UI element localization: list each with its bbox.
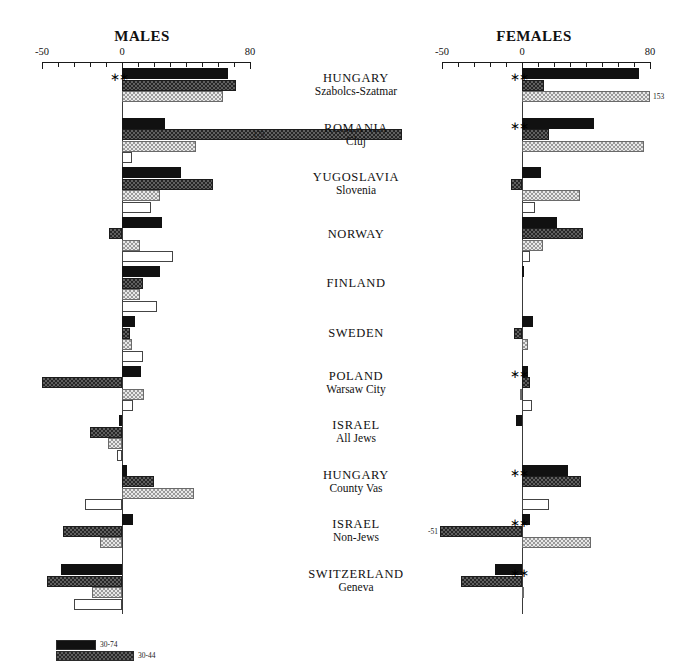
category-name: NORWAY	[300, 227, 412, 241]
bar	[122, 301, 157, 312]
bar	[122, 91, 223, 102]
axis-tick-label: 0	[119, 46, 124, 57]
bar	[522, 251, 530, 262]
chart-panel-males: MALES -50080 175∗∗	[0, 0, 300, 671]
category-name: POLAND	[300, 369, 412, 383]
bar	[122, 278, 143, 289]
bar	[122, 80, 236, 91]
bar	[522, 339, 528, 350]
axis-tick	[138, 62, 139, 67]
axis-tick-label: -50	[435, 46, 449, 57]
category-subname: Szabolcs-Szatmar	[300, 85, 412, 98]
bar	[122, 476, 154, 487]
category-name: HUNGARY	[300, 71, 412, 85]
category-name: HUNGARY	[300, 468, 412, 482]
axis-tick	[90, 62, 91, 67]
bar	[522, 587, 524, 598]
significance-marker: ∗∗	[510, 369, 528, 379]
axis-tick-label: 80	[645, 46, 656, 57]
axis-tick	[154, 62, 155, 67]
axis-tick	[170, 62, 171, 67]
axis-tick	[218, 62, 219, 67]
bar	[61, 564, 122, 575]
plot-area-females: 153-51∗∗∗∗∗∗∗∗∗∗∗∗	[442, 68, 650, 614]
bar	[522, 167, 541, 178]
axis-tick-label: 80	[245, 46, 256, 57]
category-label: ISRAELAll Jews	[300, 418, 412, 445]
bar	[522, 202, 535, 213]
category-label: ISRAELNon-Jews	[300, 517, 412, 544]
bar	[119, 415, 122, 426]
category-label: NORWAY	[300, 227, 412, 241]
bar	[516, 415, 522, 426]
axis-tick	[586, 62, 587, 67]
category-labels: HUNGARYSzabolcs-SzatmarROMANIAClujYUGOSL…	[300, 0, 412, 671]
legend-label: 30-74	[100, 640, 118, 650]
category-label: YUGOSLAVIASlovenia	[300, 170, 412, 197]
significance-marker: ∗∗	[510, 468, 528, 478]
bar	[522, 118, 594, 129]
category-label: ROMANIACluj	[300, 121, 412, 148]
bar	[522, 68, 639, 79]
bar	[522, 266, 524, 277]
legend-swatch	[56, 651, 134, 661]
category-subname: Non-Jews	[300, 531, 412, 544]
bar	[522, 91, 650, 102]
bar	[122, 202, 151, 213]
legend-item: 30-44	[56, 651, 256, 661]
bar	[122, 514, 133, 525]
category-subname: County Vas	[300, 482, 412, 495]
axis-tick	[602, 62, 603, 67]
bar	[122, 217, 162, 228]
significance-marker: ∗∗	[510, 568, 528, 578]
axis-tick	[650, 62, 651, 69]
bar	[522, 190, 580, 201]
axis-tick	[186, 62, 187, 67]
bar	[47, 576, 122, 587]
axis-tick	[538, 62, 539, 67]
axis-tick	[618, 62, 619, 67]
bar	[522, 217, 557, 228]
bar	[122, 68, 228, 79]
category-label: HUNGARYSzabolcs-Szatmar	[300, 71, 412, 98]
bar	[522, 240, 543, 251]
category-subname: Warsaw City	[300, 383, 412, 396]
bar	[122, 328, 130, 339]
bar	[514, 328, 522, 339]
axis-tick	[234, 62, 235, 67]
bar	[122, 266, 160, 277]
bar	[122, 351, 143, 362]
significance-marker: ∗∗	[510, 72, 528, 82]
plot-area-males: 175∗∗	[42, 68, 250, 614]
bar	[122, 190, 160, 201]
bar	[122, 488, 194, 499]
bar	[117, 450, 122, 461]
category-label: POLANDWarsaw City	[300, 369, 412, 396]
legend-label: 30-44	[138, 651, 156, 661]
category-subname: Cluj	[300, 135, 412, 148]
axis-tick	[250, 62, 251, 69]
bar	[85, 499, 122, 510]
bar	[122, 465, 127, 476]
bar	[522, 228, 583, 239]
category-label: HUNGARYCounty Vas	[300, 468, 412, 495]
axis-tick	[634, 62, 635, 67]
category-label: SWITZERLANDGeneva	[300, 567, 412, 594]
category-name: YUGOSLAVIA	[300, 170, 412, 184]
bar-value-label: 153	[653, 93, 664, 101]
axis-tick	[58, 62, 59, 67]
significance-marker: ∗∗	[110, 72, 128, 82]
category-name: ISRAEL	[300, 517, 412, 531]
bar	[522, 476, 581, 487]
bar	[100, 537, 122, 548]
legend-item: 30-74	[56, 640, 256, 650]
category-name: FINLAND	[300, 276, 412, 290]
bar	[122, 339, 132, 350]
bar	[42, 377, 122, 388]
axis-tick	[570, 62, 571, 67]
bar	[122, 400, 133, 411]
bar	[522, 141, 644, 152]
bar	[74, 599, 122, 610]
bar	[122, 152, 132, 163]
chart-panel-females: FEMALES -50080 153-51∗∗∗∗∗∗∗∗∗∗∗∗	[410, 0, 682, 671]
